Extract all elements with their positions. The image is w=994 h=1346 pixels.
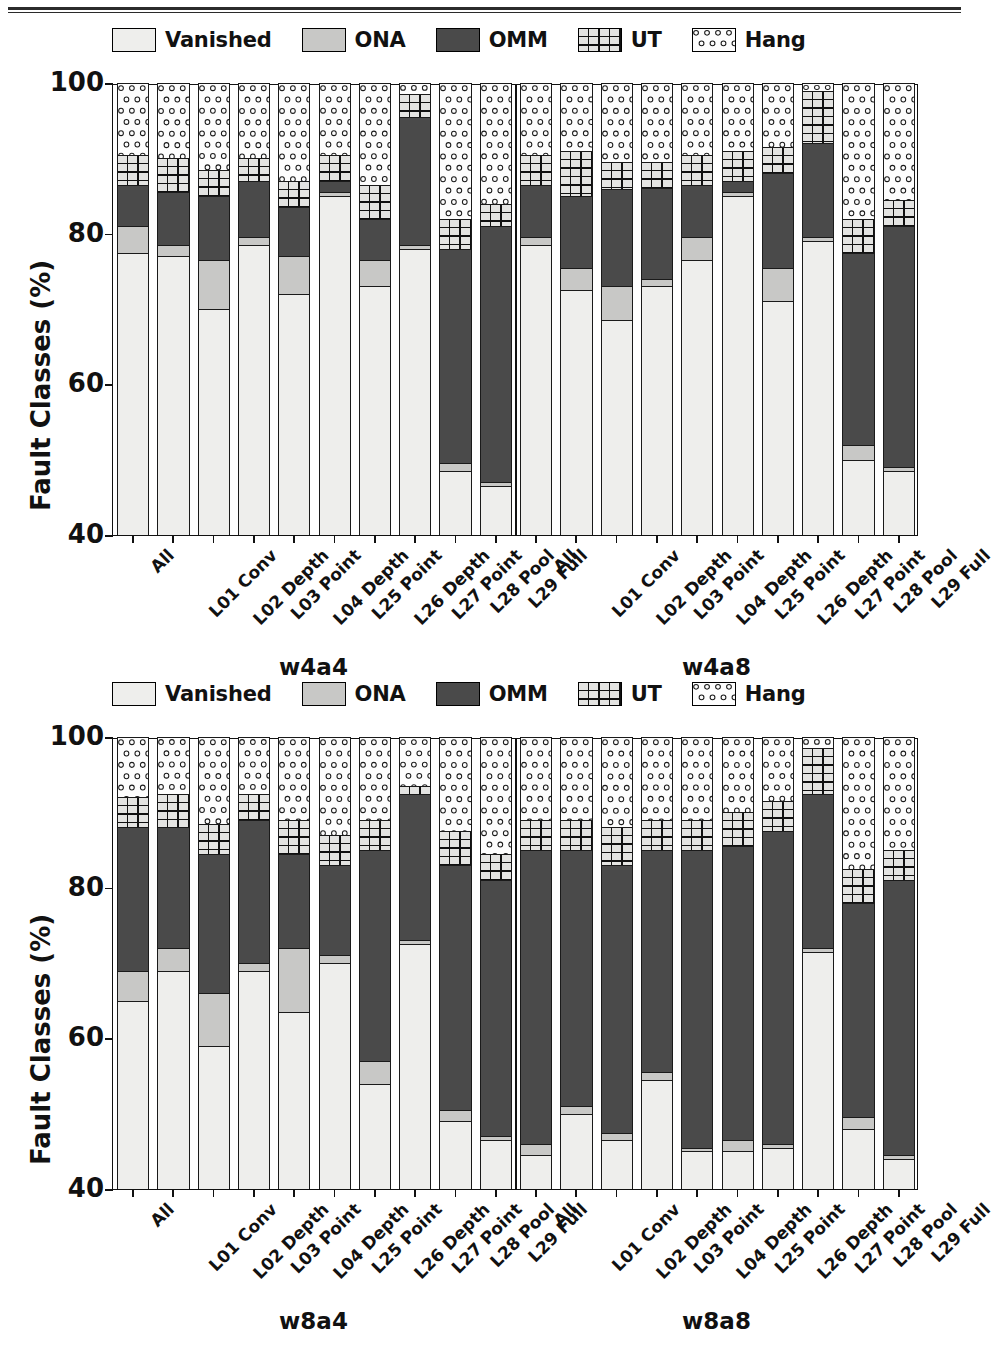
stacked-bar[interactable] (520, 85, 552, 535)
bar-segment-hang (762, 737, 794, 801)
stacked-bar[interactable] (359, 85, 391, 535)
x-tick-mark (455, 1190, 457, 1197)
stacked-bar[interactable] (439, 739, 471, 1189)
bar-segment-ut (641, 820, 673, 850)
legend-item-ona[interactable]: ONA (302, 682, 436, 706)
stacked-bar[interactable] (601, 85, 633, 535)
bar-segment-ut (560, 151, 592, 196)
bar-segment-hang (439, 737, 471, 831)
stacked-bar[interactable] (842, 739, 874, 1189)
bar-segment-omm (601, 865, 633, 1132)
stacked-bar[interactable] (157, 739, 189, 1189)
stacked-bar[interactable] (198, 739, 230, 1189)
x-tick-mark (656, 536, 658, 543)
bar-segment-omm (762, 173, 794, 267)
stacked-bar[interactable] (319, 739, 351, 1189)
bar-segment-omm (117, 827, 149, 970)
bar-segment-omm (883, 880, 915, 1155)
bar-segment-hang (480, 83, 512, 204)
bar-segment-vanished (399, 944, 431, 1189)
stacked-bar[interactable] (520, 739, 552, 1189)
bar-segment-omm (722, 181, 754, 192)
stacked-bar[interactable] (560, 739, 592, 1189)
legend-label: Vanished (165, 682, 272, 706)
legend-item-vanished[interactable]: Vanished (112, 28, 302, 52)
legend-item-hang[interactable]: Hang (692, 682, 806, 706)
bar-segment-omm (480, 226, 512, 482)
bar-segment-hang (238, 83, 270, 158)
stacked-bar[interactable] (883, 85, 915, 535)
chart-panel-bottom: VanishedONAOMMUTHangFault Classes (%)100… (0, 672, 969, 1332)
bar-segment-ut (762, 801, 794, 831)
stacked-bar[interactable] (238, 85, 270, 535)
bar-segment-hang (762, 83, 794, 147)
x-tick-mark (575, 1190, 577, 1197)
stacked-bar[interactable] (359, 739, 391, 1189)
stacked-bar[interactable] (802, 85, 834, 535)
legend-item-vanished[interactable]: Vanished (112, 682, 302, 706)
bar-segment-ut (883, 850, 915, 880)
stacked-bar[interactable] (722, 85, 754, 535)
legend-swatch-hang-icon (692, 682, 736, 706)
legend-item-omm[interactable]: OMM (436, 682, 578, 706)
stacked-bar[interactable] (480, 739, 512, 1189)
bar-segment-vanished (359, 1084, 391, 1189)
stacked-bar[interactable] (399, 739, 431, 1189)
bar-segment-hang (157, 83, 189, 158)
stacked-bar[interactable] (641, 85, 673, 535)
stacked-bar[interactable] (762, 85, 794, 535)
stacked-bar[interactable] (480, 85, 512, 535)
legend-item-ona[interactable]: ONA (302, 28, 436, 52)
bar-segment-hang (722, 83, 754, 151)
stacked-bar[interactable] (802, 739, 834, 1189)
stacked-bar[interactable] (399, 85, 431, 535)
bar-segment-ut (480, 854, 512, 880)
stacked-bar[interactable] (762, 739, 794, 1189)
stacked-bar[interactable] (681, 739, 713, 1189)
stacked-bar[interactable] (278, 739, 310, 1189)
stacked-bar[interactable] (117, 739, 149, 1189)
y-tick-label: 40 (32, 519, 104, 549)
x-tick-mark (777, 536, 779, 543)
legend-item-ut[interactable]: UT (578, 682, 692, 706)
bar-segment-vanished (480, 1140, 512, 1189)
plot-area (112, 738, 918, 1190)
stacked-bar[interactable] (641, 739, 673, 1189)
stacked-bar[interactable] (157, 85, 189, 535)
bar-segment-ona (238, 963, 270, 971)
bar-segment-omm (681, 185, 713, 238)
bar-segment-hang (278, 83, 310, 181)
bar-segment-vanished (359, 286, 391, 535)
legend-swatch-hang-icon (692, 28, 736, 52)
stacked-bar[interactable] (601, 739, 633, 1189)
stacked-bar[interactable] (198, 85, 230, 535)
stacked-bar[interactable] (722, 739, 754, 1189)
bar-segment-ut (681, 820, 713, 850)
bar-segment-hang (560, 83, 592, 151)
legend-item-omm[interactable]: OMM (436, 28, 578, 52)
stacked-bar[interactable] (560, 85, 592, 535)
stacked-bar[interactable] (238, 739, 270, 1189)
x-tick-mark (696, 1190, 698, 1197)
x-tick-mark (374, 536, 376, 543)
stacked-bar[interactable] (842, 85, 874, 535)
bar-segment-ut (480, 204, 512, 227)
bar-segment-omm (722, 846, 754, 1140)
stacked-bar[interactable] (439, 85, 471, 535)
stacked-bar[interactable] (117, 85, 149, 535)
bar-segment-ut (198, 170, 230, 196)
stacked-bar[interactable] (681, 85, 713, 535)
legend-item-ut[interactable]: UT (578, 28, 692, 52)
bar-segment-omm (560, 850, 592, 1106)
legend-item-hang[interactable]: Hang (692, 28, 806, 52)
bar-segment-vanished (319, 196, 351, 535)
bar-segment-vanished (722, 196, 754, 535)
bar-segment-hang (641, 737, 673, 820)
bar-segment-ut (157, 794, 189, 828)
bar-segment-ona (560, 268, 592, 291)
stacked-bar[interactable] (278, 85, 310, 535)
bar-segment-vanished (319, 963, 351, 1189)
stacked-bar[interactable] (883, 739, 915, 1189)
stacked-bar[interactable] (319, 85, 351, 535)
bar-segment-ut (399, 786, 431, 794)
